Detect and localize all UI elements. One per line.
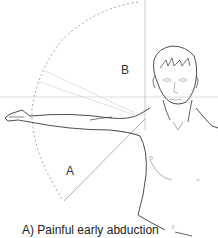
torso-lower-line [175,232,192,236]
arm-lower-outline [30,122,140,136]
neck-left-line [163,100,170,120]
nose [174,82,178,93]
nipple-right [197,179,199,181]
hair-line [160,58,190,68]
right-eye [180,79,187,82]
navel [172,225,174,229]
hand-outline [5,110,30,122]
torso-left-outline [138,136,165,230]
mouth [170,99,182,100]
arm-outline [30,108,150,119]
left-eye [164,79,171,82]
zone-a-label: A [66,164,74,178]
neck-notch [173,122,183,130]
right-shoulder-outline [196,108,218,128]
range-of-motion-arc [32,2,138,200]
left-ear [153,76,155,88]
zone-a-boundary-line [64,119,145,201]
neck-right-line [188,100,192,122]
pectoral-outline [150,160,172,180]
nipple-left [150,157,153,160]
shoulder-abduction-diagram [0,0,218,238]
zone-b-label: B [121,63,129,77]
head-outline [154,46,197,104]
forearm-crease [90,117,112,120]
ray-line [37,81,135,115]
figure-caption: A) Painful early abduction [22,223,159,237]
